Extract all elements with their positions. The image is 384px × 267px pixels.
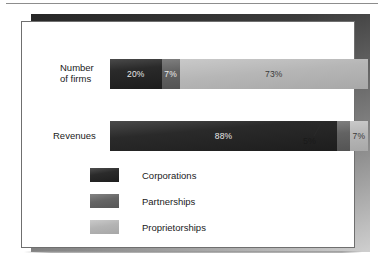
- callout-label-5-percent: 5%: [303, 136, 316, 146]
- row-label-number-of-firms: Number of firms: [60, 62, 108, 84]
- row-label-revenues: Revenues: [53, 130, 109, 141]
- bar-segment-partnerships: 5%: [337, 121, 350, 151]
- bar-segment-corporations: 20%: [110, 59, 162, 89]
- legend-swatch-corporations-icon: [90, 168, 119, 182]
- legend-label: Partnerships: [142, 196, 195, 207]
- top-rule-divider: [6, 3, 378, 4]
- bar-segment-value: 20%: [127, 69, 145, 79]
- legend-label: Corporations: [142, 170, 196, 181]
- bar-segment-value: 88%: [215, 131, 233, 141]
- bar-segment-value: 7%: [164, 69, 177, 79]
- bar-segment-partnerships: 7%: [162, 59, 180, 89]
- legend-label: Proprietorships: [142, 222, 206, 233]
- bar-segment-value: 7%: [353, 131, 366, 141]
- stacked-bar-number-of-firms: 20% 7% 73%: [110, 59, 368, 89]
- bar-segment-value: 73%: [265, 69, 283, 79]
- bar-segment-proprietorships: 73%: [180, 59, 368, 89]
- legend-swatch-proprietorships-icon: [90, 220, 119, 234]
- card-underline-shadow: [24, 251, 362, 253]
- legend-item-corporations: Corporations: [90, 162, 206, 188]
- chart-legend: Corporations Partnerships Proprietorship…: [90, 162, 206, 240]
- bar-segment-proprietorships: 7%: [350, 121, 368, 151]
- legend-swatch-partnerships-icon: [90, 194, 119, 208]
- legend-item-partnerships: Partnerships: [90, 188, 206, 214]
- figure-root: Number of firms 20% 7% 73% Revenues 88% …: [0, 0, 384, 267]
- callout-leader-line-icon: [313, 122, 323, 136]
- legend-item-proprietorships: Proprietorships: [90, 214, 206, 240]
- stacked-bar-revenues: 88% 5% 7%: [110, 121, 368, 151]
